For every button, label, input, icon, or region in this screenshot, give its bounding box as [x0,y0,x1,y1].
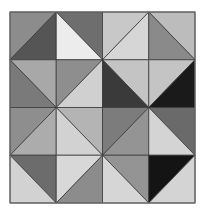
quilt-grid [0,0,207,214]
quilt-pattern [0,0,207,214]
